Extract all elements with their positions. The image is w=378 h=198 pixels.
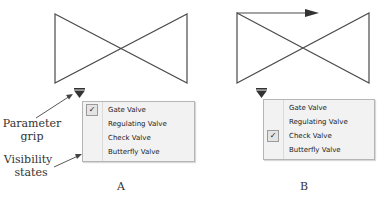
- valve-symbol-a: [55, 14, 187, 83]
- check-icon: ✓: [267, 130, 279, 142]
- check-icon: ✓: [86, 104, 98, 116]
- menu-item-regulating-valve[interactable]: Regulating Valve: [264, 115, 374, 129]
- menu-item-label: Butterfly Valve: [108, 148, 160, 156]
- callout-line: states: [0, 166, 56, 179]
- menu-item-label: Check Valve: [108, 134, 151, 142]
- parameter-grip-b[interactable]: [256, 88, 267, 98]
- menu-item-label: Gate Valve: [108, 106, 146, 114]
- callout-arrow-visibility-states: [54, 154, 82, 167]
- flow-arrow-icon: [237, 9, 319, 17]
- parameter-grip-a[interactable]: [74, 88, 85, 98]
- figure-label-a: A: [117, 180, 125, 193]
- callout-arrow-parameter-grip: [36, 94, 73, 118]
- visibility-states-menu-b: Gate Valve Regulating Valve ✓ Check Valv…: [263, 99, 375, 160]
- menu-item-check-valve[interactable]: Check Valve: [83, 131, 194, 145]
- menu-item-check-valve[interactable]: ✓ Check Valve: [264, 129, 374, 143]
- menu-item-regulating-valve[interactable]: Regulating Valve: [83, 117, 194, 131]
- callout-line: grip: [2, 130, 62, 143]
- valve-symbol-b: [237, 13, 369, 83]
- callout-line: Parameter: [2, 117, 62, 130]
- menu-item-label: Regulating Valve: [108, 120, 167, 128]
- visibility-states-menu-a: ✓ Gate Valve Regulating Valve Check Valv…: [82, 101, 195, 162]
- menu-item-gate-valve[interactable]: ✓ Gate Valve: [83, 103, 194, 117]
- menu-item-label: Butterfly Valve: [289, 146, 341, 154]
- callout-visibility-states: Visibility states: [0, 153, 56, 179]
- menu-item-label: Check Valve: [289, 132, 332, 140]
- menu-item-label: Regulating Valve: [289, 118, 348, 126]
- figure-label-b: B: [300, 180, 308, 193]
- menu-item-label: Gate Valve: [289, 104, 327, 112]
- callout-parameter-grip: Parameter grip: [2, 117, 62, 143]
- menu-item-gate-valve[interactable]: Gate Valve: [264, 101, 374, 115]
- menu-item-butterfly-valve[interactable]: Butterfly Valve: [264, 143, 374, 157]
- menu-item-butterfly-valve[interactable]: Butterfly Valve: [83, 145, 194, 159]
- callout-line: Visibility: [0, 153, 56, 166]
